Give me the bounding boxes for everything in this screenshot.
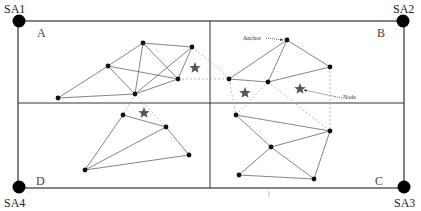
corner-anchor-icon bbox=[13, 15, 26, 28]
link bbox=[239, 147, 271, 175]
star-icon bbox=[138, 107, 149, 118]
link bbox=[287, 40, 330, 67]
corner-label-sa4: SA4 bbox=[4, 197, 25, 209]
corner-anchors bbox=[13, 15, 411, 194]
dashed-link bbox=[123, 94, 135, 115]
link bbox=[108, 43, 143, 66]
star-icon bbox=[189, 62, 200, 73]
region-label-b: B bbox=[377, 27, 385, 39]
link bbox=[123, 115, 166, 127]
region-label-d: D bbox=[36, 175, 45, 187]
star-icon bbox=[239, 87, 250, 98]
anchor-nodes bbox=[56, 38, 333, 182]
node-dot-icon bbox=[234, 113, 239, 118]
node-dot-icon bbox=[269, 145, 274, 150]
arrowhead-icon bbox=[304, 89, 307, 92]
anchor-callout-label: Anchor bbox=[243, 35, 261, 41]
corner-label-sa2: SA2 bbox=[393, 3, 414, 15]
link bbox=[135, 47, 192, 94]
link bbox=[135, 79, 178, 94]
link bbox=[135, 43, 143, 94]
link bbox=[143, 43, 192, 47]
node-dot-icon bbox=[141, 41, 146, 46]
corner-anchor-icon bbox=[397, 15, 410, 28]
network-diagram bbox=[0, 0, 421, 211]
corner-anchor-icon bbox=[13, 181, 26, 194]
link bbox=[239, 175, 314, 179]
corner-anchor-icon bbox=[398, 181, 411, 194]
outer-border bbox=[18, 21, 404, 188]
node-dot-icon bbox=[83, 168, 88, 173]
link bbox=[268, 67, 330, 82]
dashed-link bbox=[135, 94, 166, 127]
network-links bbox=[58, 40, 330, 179]
dashed-link bbox=[236, 82, 268, 115]
link bbox=[271, 131, 330, 147]
node-dot-icon bbox=[237, 173, 242, 178]
link bbox=[58, 66, 108, 98]
node-dot-icon bbox=[176, 77, 181, 82]
dashed-link bbox=[229, 79, 236, 115]
node-dot-icon bbox=[266, 80, 271, 85]
link bbox=[236, 115, 330, 131]
region-label-a: A bbox=[37, 27, 46, 39]
node-callout-label: Node bbox=[343, 94, 356, 100]
node-dot-icon bbox=[121, 113, 126, 118]
link bbox=[229, 79, 268, 82]
node-dot-icon bbox=[190, 45, 195, 50]
node-dot-icon bbox=[227, 77, 232, 82]
node-dot-icon bbox=[328, 65, 333, 70]
star-icon bbox=[294, 83, 305, 94]
node-dot-icon bbox=[56, 96, 61, 101]
node-callout-arrow bbox=[304, 90, 342, 98]
node-dot-icon bbox=[164, 125, 169, 130]
node-dot-icon bbox=[133, 92, 138, 97]
node-dot-icon bbox=[328, 129, 333, 134]
link bbox=[85, 127, 166, 170]
node-dot-icon bbox=[312, 177, 317, 182]
node-dot-icon bbox=[106, 64, 111, 69]
link bbox=[85, 115, 123, 170]
link bbox=[314, 131, 330, 179]
link bbox=[178, 47, 192, 79]
link bbox=[85, 155, 189, 170]
node-dot-icon bbox=[187, 153, 192, 158]
node-dot-icon bbox=[285, 38, 290, 43]
link bbox=[58, 94, 135, 98]
area-frame bbox=[18, 21, 404, 197]
corner-label-sa3: SA3 bbox=[394, 197, 415, 209]
corner-label-sa1: SA1 bbox=[4, 3, 25, 15]
link bbox=[271, 147, 314, 179]
region-label-c: C bbox=[375, 175, 383, 187]
link bbox=[166, 127, 189, 155]
